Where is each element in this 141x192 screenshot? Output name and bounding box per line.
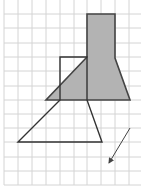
diagram-svg: [0, 0, 141, 192]
arrow-down-left-icon: [109, 128, 130, 163]
diagram-canvas: Grid with shaded figure, outlined image …: [0, 0, 141, 192]
